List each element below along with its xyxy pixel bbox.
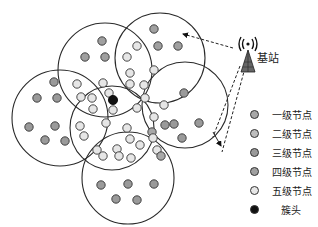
- cluster-head-node: [108, 95, 117, 104]
- legend: 一级节点 二级节点 三级节点 四级节点 五级节点 簇头: [240, 105, 318, 219]
- sensor-node: [77, 93, 85, 101]
- legend-item-level-4: 四级节点: [240, 162, 318, 181]
- sensor-node: [124, 180, 132, 188]
- sensor-node: [150, 113, 158, 121]
- sensor-node: [102, 119, 110, 127]
- level-3-node-icon: [250, 148, 259, 157]
- sensor-node: [149, 134, 157, 142]
- legend-item-level-1: 一级节点: [240, 105, 318, 124]
- sensor-node: [133, 104, 141, 112]
- level-5-node-icon: [250, 186, 259, 195]
- sensor-node: [180, 89, 188, 97]
- legend-item-cluster-head: 簇头: [240, 200, 318, 219]
- legend-label: 二级节点: [272, 126, 312, 141]
- sensor-node: [161, 121, 169, 129]
- sensor-node: [126, 80, 134, 88]
- sensor-node: [89, 105, 97, 113]
- sensor-node: [127, 154, 135, 162]
- sensor-node: [97, 181, 105, 189]
- sensor-node: [195, 119, 203, 127]
- sensor-node: [76, 122, 84, 130]
- legend-item-level-5: 五级节点: [240, 181, 318, 200]
- sensor-node: [157, 152, 165, 160]
- sensor-node: [150, 25, 158, 33]
- sensor-node: [98, 37, 106, 45]
- sensor-node: [109, 106, 117, 114]
- sensor-node: [154, 42, 162, 50]
- antenna-tower-icon: [239, 37, 257, 72]
- sensor-node: [53, 94, 61, 102]
- sensor-node: [136, 141, 144, 149]
- communication-links: [183, 34, 245, 152]
- sensor-node: [141, 94, 149, 102]
- legend-label: 四级节点: [272, 164, 312, 179]
- legend-label: 一级节点: [272, 107, 312, 122]
- sensor-node: [99, 152, 107, 160]
- sensor-node: [88, 94, 96, 102]
- level-1-node-icon: [250, 110, 259, 119]
- sensor-node: [73, 80, 81, 88]
- sensor-node: [61, 137, 69, 145]
- sensor-node: [150, 66, 158, 74]
- sensor-node: [101, 53, 109, 61]
- sensor-node: [41, 136, 49, 144]
- sensor-node: [133, 42, 141, 50]
- level-2-node-icon: [250, 129, 259, 138]
- legend-item-level-3: 三级节点: [240, 143, 318, 162]
- sensor-nodes: [25, 25, 203, 204]
- sensor-node: [50, 78, 58, 86]
- sensor-node: [140, 81, 148, 89]
- cluster-circles: [12, 13, 228, 224]
- cluster-head: [108, 95, 117, 104]
- cluster-head-icon: [250, 205, 259, 214]
- sensor-node: [33, 94, 41, 102]
- base-station-label: 基站: [257, 49, 279, 65]
- legend-label: 簇头: [281, 202, 301, 217]
- sensor-node: [123, 124, 131, 132]
- sensor-node: [51, 122, 59, 130]
- sensor-node: [123, 53, 131, 61]
- sensor-node: [178, 134, 186, 142]
- sensor-node: [25, 123, 33, 131]
- legend-label: 三级节点: [272, 145, 312, 160]
- sensor-node: [126, 69, 134, 77]
- sensor-node: [80, 132, 88, 140]
- sensor-node: [81, 53, 89, 61]
- sensor-node: [112, 195, 120, 203]
- sensor-node: [133, 196, 141, 204]
- sensor-node: [99, 79, 107, 87]
- sensor-node: [174, 42, 182, 50]
- sensor-node: [160, 101, 168, 109]
- sensor-node: [170, 120, 178, 128]
- link-line: [183, 34, 233, 48]
- legend-label: 五级节点: [272, 183, 312, 198]
- sensor-node: [115, 152, 123, 160]
- level-4-node-icon: [250, 167, 259, 176]
- legend-item-level-2: 二级节点: [240, 124, 318, 143]
- sensor-node: [150, 180, 158, 188]
- sensor-node: [126, 135, 134, 143]
